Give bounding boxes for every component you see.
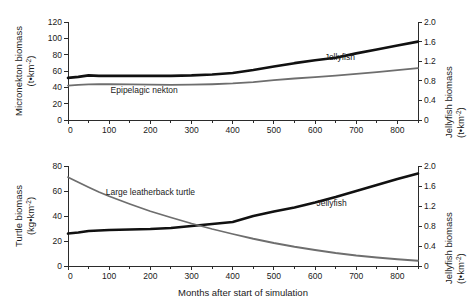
y2-tick-label: 1.6 [424,181,436,191]
y-tick-label: 60 [53,66,63,76]
x-tick-label: 100 [102,271,116,281]
y-tick-label: 0 [57,115,62,125]
x-tick-label: 400 [226,271,240,281]
y2-axis-title-top: Jellyfish biomass(t•km-2) [443,66,466,138]
y-tick-label: 20 [53,99,63,109]
two-panel-line-chart: 0100200300400500600700800020406080100120… [0,0,472,301]
y-tick-label: 0 [57,261,62,271]
x-tick-label: 400 [226,125,240,135]
x-tick-label: 500 [267,271,281,281]
x-tick-label: 800 [390,125,404,135]
y-tick-label: 40 [53,211,63,221]
y2-tick-label: 0.8 [424,76,436,86]
y2-tick-label: 0.4 [424,95,436,105]
y-axis-title-top: Micronekton biomass(t•km-2) [13,26,36,116]
x-tick-label: 800 [390,271,404,281]
y2-tick-label: 1.2 [424,201,436,211]
series-label-large-leatherback-turtle: Large leatherback turtle [106,187,196,197]
axis-frame-bottom [68,166,418,266]
x-tick-label: 600 [308,125,322,135]
y2-axis-title-line2: (t•km-2) [455,107,466,138]
x-tick-label: 300 [184,125,198,135]
series-label-epipelagic-nekton: Epipelagic nekton [111,85,178,95]
series-label-jellyfish: Jellyfish [316,198,347,208]
y2-axis-title-line1: Jellyfish biomass [443,212,454,284]
panel-bottom: 010020030040050060070080002040608000.40.… [13,161,466,298]
x-tick-label: 300 [184,271,198,281]
y2-axis-title-bottom: Jellyfish biomass(t•km-2) [443,212,466,284]
y2-tick-label: 0 [424,261,429,271]
y-axis-title-line1: Turtle biomass [13,185,24,247]
x-axis-title: Months after start of simulation [178,287,308,298]
y2-axis-title-line2: (t•km-2) [455,253,466,284]
y-tick-label: 20 [53,236,63,246]
y2-tick-label: 1.2 [424,56,436,66]
panel-top: 0100200300400500600700800020406080100120… [13,17,466,138]
series-label-jellyfish: Jellyfish [325,52,356,62]
y-tick-label: 40 [53,82,63,92]
y-axis-title-line2: (t•km-2) [25,56,36,87]
x-tick-label: 100 [102,125,116,135]
y2-axis-title-line1: Jellyfish biomass [443,66,454,138]
y-tick-label: 60 [53,186,63,196]
x-tick-label: 0 [68,125,73,135]
y-axis-title-line2: (kg•km-2) [25,197,36,235]
y2-tick-label: 0 [424,115,429,125]
series-line-jellyfish [68,174,418,234]
figure-root: 0100200300400500600700800020406080100120… [0,0,472,301]
y-axis-title-bottom: Turtle biomass(kg•km-2) [13,185,36,247]
x-tick-label: 0 [68,271,73,281]
y-tick-label: 100 [48,33,62,43]
y2-tick-label: 0.8 [424,221,436,231]
x-tick-label: 200 [143,125,157,135]
y2-tick-label: 2.0 [424,17,436,27]
y-tick-label: 80 [53,50,63,60]
y2-tick-label: 2.0 [424,161,436,171]
x-tick-label: 600 [308,271,322,281]
y2-tick-label: 0.4 [424,241,436,251]
x-tick-label: 700 [349,125,363,135]
y2-tick-label: 1.6 [424,37,436,47]
x-tick-label: 700 [349,271,363,281]
y-tick-label: 80 [53,161,63,171]
y-axis-title-line1: Micronekton biomass [13,26,24,116]
x-tick-label: 200 [143,271,157,281]
y-tick-label: 120 [48,17,62,27]
x-tick-label: 500 [267,125,281,135]
